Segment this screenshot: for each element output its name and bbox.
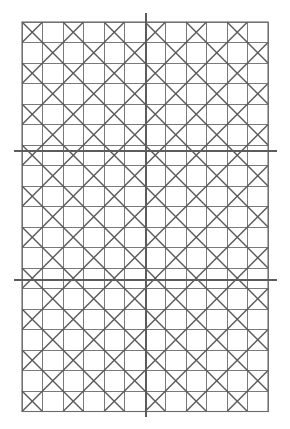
lattice-pattern-svg [0, 0, 290, 429]
pattern-figure [0, 0, 290, 429]
